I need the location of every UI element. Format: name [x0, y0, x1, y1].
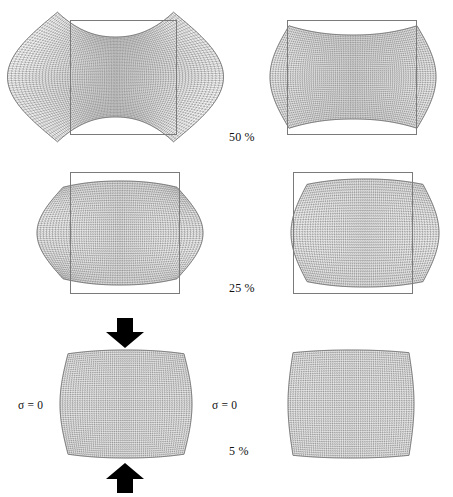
label-sigma-right: σ = 0: [212, 399, 237, 411]
panel-25-right: [285, 168, 445, 298]
label-compression-50: 50 %: [229, 130, 255, 145]
load-arrow-bottom: [104, 463, 146, 493]
mesh-50-right: [255, 12, 451, 142]
panel-5-left: [60, 345, 192, 463]
compression-figure: 50 % 25 % σ = 0 σ = 0 5 %: [0, 0, 453, 497]
label-sigma-left: σ = 0: [18, 399, 43, 411]
panel-50-right: [255, 12, 451, 142]
panel-50-left: [8, 12, 223, 142]
label-compression-5: 5 %: [229, 444, 249, 459]
mesh-5-right: [285, 345, 417, 463]
panel-25-left: [30, 168, 210, 298]
mesh-25-left: [30, 168, 210, 298]
label-compression-25: 25 %: [229, 281, 255, 296]
load-arrow-top: [104, 318, 146, 348]
panel-5-right: [285, 345, 417, 463]
mesh-25-right: [285, 168, 445, 298]
mesh-5-left: [60, 345, 192, 463]
mesh-50-left: [8, 12, 223, 142]
